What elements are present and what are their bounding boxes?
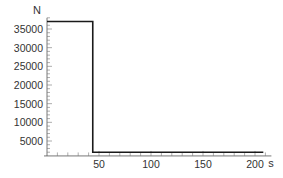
- y-tick-label: 10000: [14, 116, 43, 128]
- y-tick-label: 30000: [14, 42, 43, 54]
- y-axis-label: N: [33, 4, 41, 16]
- series-line: [47, 22, 263, 153]
- ticks: [47, 18, 265, 156]
- y-tick-label: 35000: [14, 23, 43, 35]
- y-tick-label: 15000: [14, 98, 43, 110]
- x-tick-label: 50: [93, 158, 105, 170]
- y-tick-label: 5000: [20, 135, 44, 147]
- step-chart: 5000100001500020000250003000035000501001…: [0, 0, 283, 178]
- x-tick-label: 150: [194, 158, 212, 170]
- tick-labels: 5000100001500020000250003000035000501001…: [14, 23, 264, 170]
- y-tick-label: 20000: [14, 79, 43, 91]
- plot-area: [47, 22, 263, 153]
- x-tick-label: 200: [246, 158, 264, 170]
- x-axis-label: s: [268, 157, 274, 169]
- y-tick-label: 25000: [14, 60, 43, 72]
- x-tick-label: 100: [142, 158, 160, 170]
- axes: [44, 18, 271, 156]
